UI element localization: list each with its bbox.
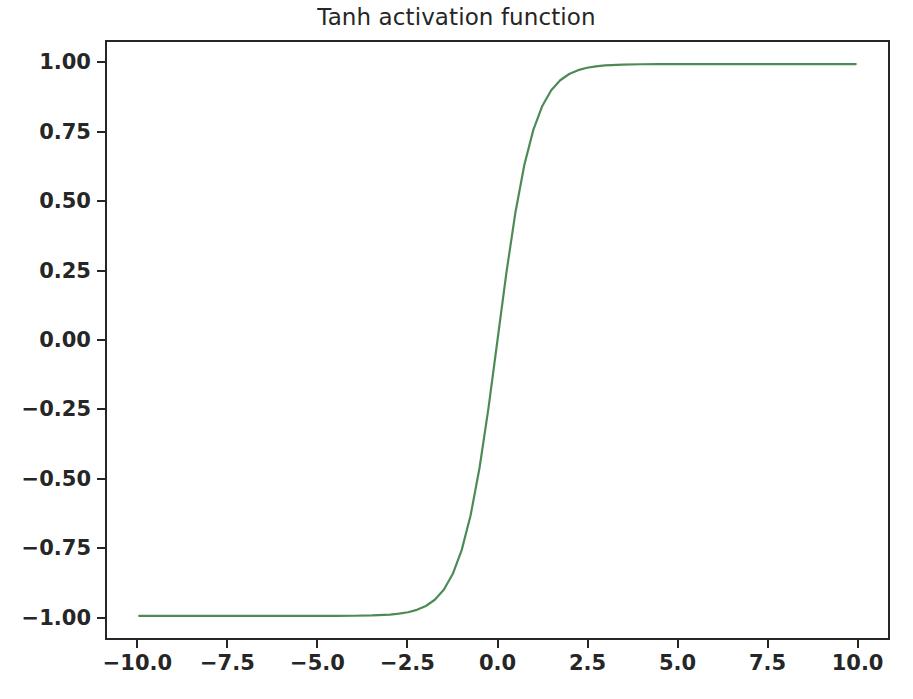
x-tick-mark [316,640,318,648]
chart-title: Tanh activation function [0,2,913,32]
x-tick-label: 0.0 [479,651,516,675]
x-tick-mark [406,640,408,648]
plot-area [107,42,888,638]
x-tick-mark [587,640,589,648]
x-tick-mark [136,640,138,648]
x-tick-mark [226,640,228,648]
y-tick-mark [97,408,105,410]
y-tick-mark [97,547,105,549]
figure-canvas: Tanh activation function 1.000.750.500.2… [0,0,913,699]
tanh-curve [139,64,856,616]
x-tick-label: −10.0 [103,651,172,675]
y-tick-label: −0.50 [22,467,91,491]
y-tick-label: 1.00 [39,50,91,74]
x-tick-label: −7.5 [200,651,255,675]
y-tick-label: 0.50 [39,189,91,213]
x-tick-label: 7.5 [749,651,786,675]
x-tick-mark [677,640,679,648]
y-tick-label: −1.00 [22,606,91,630]
x-tick-mark [767,640,769,648]
x-tick-mark [857,640,859,648]
y-tick-label: −0.75 [22,536,91,560]
plot-axes-frame [105,40,890,640]
x-tick-label: 2.5 [569,651,606,675]
y-tick-label: 0.75 [39,120,91,144]
y-tick-mark [97,131,105,133]
x-tick-label: −2.5 [380,651,435,675]
x-tick-label: 5.0 [659,651,696,675]
y-tick-label: −0.25 [22,397,91,421]
y-tick-mark [97,339,105,341]
y-tick-mark [97,200,105,202]
x-tick-label: −5.0 [290,651,345,675]
y-tick-label: 0.25 [39,259,91,283]
y-tick-mark [97,61,105,63]
y-tick-label: 0.00 [39,328,91,352]
y-tick-mark [97,270,105,272]
y-tick-mark [97,478,105,480]
x-tick-label: 10.0 [832,651,884,675]
x-tick-mark [497,640,499,648]
y-tick-mark [97,617,105,619]
